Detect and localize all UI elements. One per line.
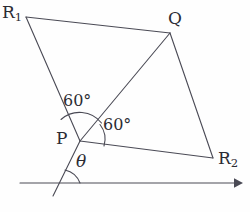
angle-label-lower-60: 60° xyxy=(103,117,131,133)
vertex-label-r2-subscript: 2 xyxy=(231,156,238,170)
angle-label-theta: θ xyxy=(76,153,86,170)
segment-r1-p xyxy=(26,17,80,141)
vertex-label-r2: R2 xyxy=(218,150,238,170)
arrowhead-icon xyxy=(234,178,243,188)
vertex-label-r1-subscript: 1 xyxy=(15,10,22,24)
geometry-canvas xyxy=(0,0,250,212)
vertex-label-r1: R1 xyxy=(2,4,22,24)
vertex-label-p: P xyxy=(56,130,67,147)
arrowhead-group xyxy=(234,178,243,188)
vertex-label-q: Q xyxy=(168,10,182,27)
segment-q-r2 xyxy=(170,33,213,158)
segment-p-r2 xyxy=(80,141,213,158)
angle-label-upper-60: 60° xyxy=(63,93,91,109)
angle-arc-upper-60 xyxy=(61,112,102,123)
angle-arc-theta xyxy=(65,170,80,183)
geometry-figure: R1 Q P R2 60° 60° θ xyxy=(0,0,250,212)
segment-r1-q xyxy=(26,17,170,33)
